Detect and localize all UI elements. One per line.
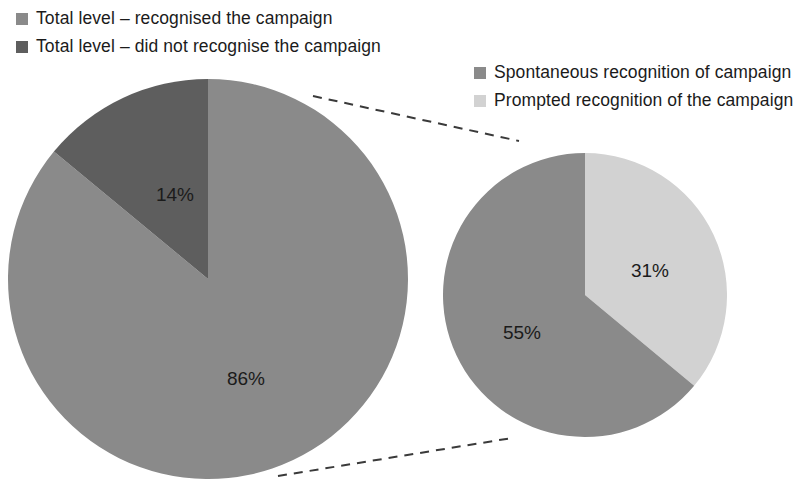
legend-swatch-recognised — [16, 13, 28, 25]
legend-swatch-spontaneous — [474, 67, 486, 79]
pie-label-small-major: 31% — [631, 260, 669, 282]
legend-label-spontaneous: Spontaneous recognition of campaign — [494, 62, 791, 83]
recognition-breakdown-pie — [443, 153, 727, 437]
pie-label-small-minor: 55% — [503, 322, 541, 344]
legend-item-prompted[interactable]: Prompted recognition of the campaign — [474, 90, 793, 111]
legend-label-not-recognised: Total level – did not recognise the camp… — [36, 36, 381, 57]
pie-label-large-major: 86% — [227, 368, 265, 390]
legend-swatch-prompted — [474, 95, 486, 107]
chart-canvas: Total level – recognised the campaign To… — [0, 0, 807, 490]
legend-label-recognised: Total level – recognised the campaign — [36, 8, 333, 29]
total-recognition-pie — [8, 79, 408, 479]
pie-label-large-minor: 14% — [156, 184, 194, 206]
legend-item-not-recognised[interactable]: Total level – did not recognise the camp… — [16, 36, 381, 57]
legend-recognition-breakdown: Spontaneous recognition of campaign Prom… — [474, 62, 793, 118]
recognition-breakdown-pie-svg — [443, 153, 727, 437]
legend-swatch-not-recognised — [16, 41, 28, 53]
legend-item-recognised[interactable]: Total level – recognised the campaign — [16, 8, 381, 29]
pie-slices-small — [443, 153, 727, 437]
legend-item-spontaneous[interactable]: Spontaneous recognition of campaign — [474, 62, 793, 83]
total-recognition-pie-svg — [8, 79, 408, 479]
pie-slices-large — [8, 79, 408, 479]
legend-total-level: Total level – recognised the campaign To… — [16, 8, 381, 64]
legend-label-prompted: Prompted recognition of the campaign — [494, 90, 793, 111]
